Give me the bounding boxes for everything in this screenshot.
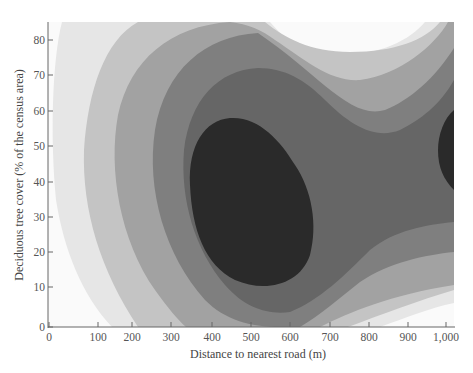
x-tick-label: 300 [162,331,180,343]
x-axis-title: Distance to nearest road (m) [190,347,326,361]
x-tick-label: 900 [399,331,417,343]
x-tick-label: 0 [46,331,52,343]
plot-area [48,22,454,327]
x-tick-label: 200 [123,331,141,343]
y-tick-label: 40 [34,176,46,188]
x-tick-label: 400 [203,331,221,343]
x-tick-labels: 0 100 200 300 400 500 600 700 800 900 1,… [46,331,459,344]
x-tick-label: 700 [321,331,339,343]
y-tick-label: 10 [34,281,46,293]
y-tick-labels: 0 10 20 30 40 50 60 70 80 [34,34,46,333]
x-tick-label: 600 [281,331,299,343]
y-tick-label: 50 [34,140,46,152]
y-tick-label: 0 [39,321,45,333]
x-tick-label: 800 [360,331,378,343]
y-axis-title: Deciduous tree cover (% of the census ar… [12,69,26,281]
y-tick-label: 30 [34,211,46,223]
y-tick-label: 80 [34,34,46,46]
y-tick-label: 20 [34,246,46,258]
x-tick-label: 500 [242,331,260,343]
contour-chart: 0 10 20 30 40 50 60 70 80 0 100 [0,0,473,373]
x-tick-label: 1,000 [433,331,459,344]
y-tick-label: 60 [34,105,46,117]
x-tick-label: 100 [89,331,107,343]
y-tick-label: 70 [34,69,46,81]
